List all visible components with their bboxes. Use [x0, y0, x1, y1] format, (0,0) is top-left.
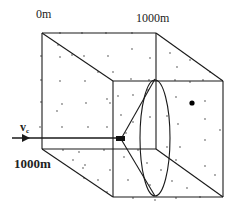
cube-diagram: 0m 1000m 1000m vc [0, 0, 237, 212]
incoming-beam-arrow [12, 134, 121, 142]
top-right-distance-label: 1000m [136, 11, 170, 25]
velocity-subscript: c [26, 127, 29, 135]
target-dot [189, 100, 194, 105]
front-left-distance-label: 1000m [14, 156, 51, 171]
diagram-canvas: 0m 1000m 1000m vc [0, 0, 237, 212]
arrowhead-icon [22, 134, 30, 142]
velocity-label: vc [20, 120, 29, 135]
sensor-block [116, 136, 125, 141]
detection-ellipse [140, 80, 170, 196]
cube-wireframe [42, 33, 223, 197]
cone-sensor [116, 79, 155, 196]
origin-label: 0m [36, 7, 52, 21]
